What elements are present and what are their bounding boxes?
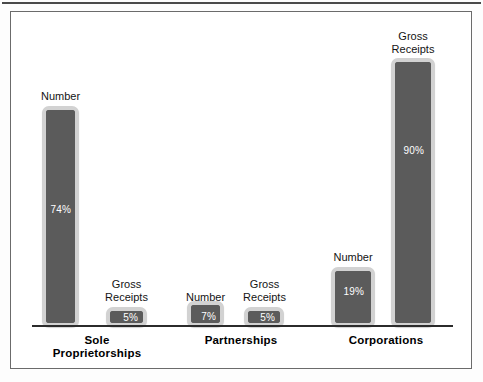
- bar-sole-proprietorships-number: 74%: [42, 106, 79, 327]
- bar-fill: [395, 62, 431, 323]
- x-axis-baseline: [32, 325, 453, 327]
- bar-value-label: 7%: [191, 311, 216, 322]
- bar-value-label: 5%: [110, 312, 138, 323]
- bar-partnerships-gross-receipts: 5%: [244, 307, 284, 327]
- bar-caption-sole-proprietorships-gross-receipts: Gross Receipts: [87, 278, 166, 303]
- bar-value-label: 74%: [46, 204, 71, 215]
- bar-fill: [46, 110, 75, 323]
- bar-caption-partnerships-gross-receipts: Gross Receipts: [225, 278, 304, 303]
- bar-corporations-number: 19%: [331, 267, 375, 327]
- bar-sole-proprietorships-gross-receipts: 5%: [106, 307, 147, 327]
- bar-fill: [335, 271, 371, 323]
- plot-area: 74% Number 5% Gross Receipts 7% Number 5…: [11, 12, 473, 370]
- bar-value-label: 90%: [395, 145, 424, 156]
- bar-corporations-gross-receipts: 90%: [391, 58, 435, 327]
- bar-partnerships-number: 7%: [187, 301, 224, 327]
- top-divider-rule: [2, 2, 481, 4]
- bar-value-label: 19%: [335, 286, 364, 297]
- bar-caption-corporations-number: Number: [313, 251, 393, 264]
- bar-caption-sole-proprietorships-number: Number: [20, 90, 101, 103]
- chart-canvas: 74% Number 5% Gross Receipts 7% Number 5…: [0, 0, 483, 382]
- category-label-corporations: Corporations: [321, 334, 451, 347]
- category-label-partnerships: Partnerships: [176, 334, 306, 347]
- bar-value-label: 5%: [248, 312, 275, 323]
- chart-frame: 74% Number 5% Gross Receipts 7% Number 5…: [10, 11, 472, 369]
- category-label-sole-proprietorships: Sole Proprietorships: [23, 334, 171, 360]
- bar-caption-corporations-gross-receipts: Gross Receipts: [373, 30, 453, 55]
